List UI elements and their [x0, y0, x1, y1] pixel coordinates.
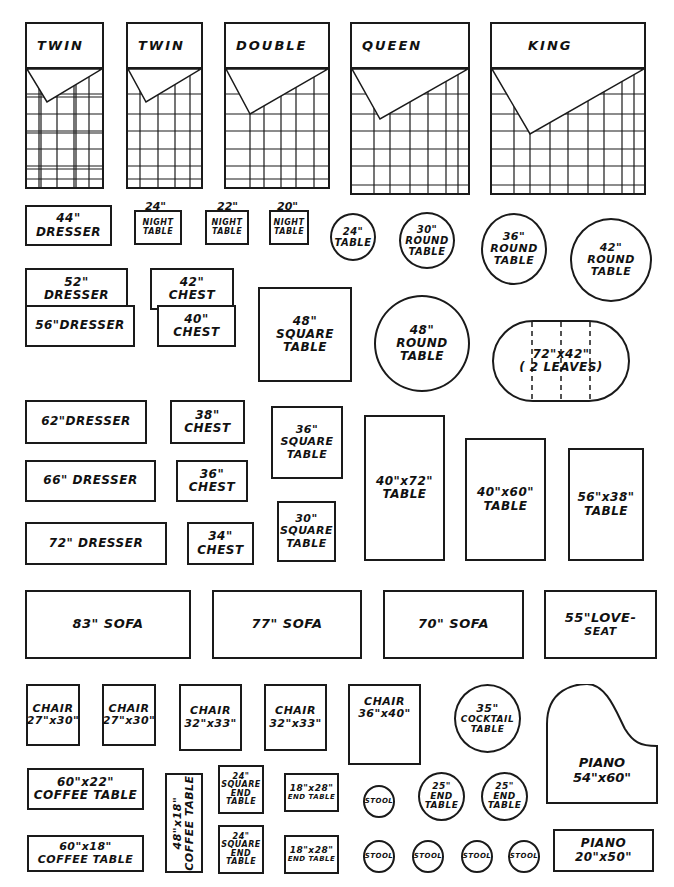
piece-size: 35": [476, 703, 499, 715]
night-table-24[interactable]: NIGHT TABLE: [134, 210, 182, 245]
piece-name: TABLE: [286, 538, 327, 550]
stool-4[interactable]: STOOL: [461, 840, 493, 873]
square-table-48[interactable]: 48" SQUARE TABLE: [258, 287, 352, 382]
round-table-36[interactable]: 36" ROUND TABLE: [481, 213, 547, 285]
bed-quilt-icon: [128, 69, 201, 187]
piece-name: TABLE: [226, 798, 256, 806]
piece-name: TABLE: [400, 350, 444, 363]
piece-name: TABLE: [283, 341, 327, 354]
round-table-42[interactable]: 42" ROUND TABLE: [570, 218, 652, 302]
grand-piano-outline-icon: [545, 684, 659, 805]
stool-1[interactable]: STOOL: [363, 785, 395, 818]
bed-quilt-icon: [492, 69, 644, 193]
upright-piano-20x50[interactable]: PIANO 20"x50": [553, 829, 654, 872]
piece-size: 20"x50": [575, 851, 632, 864]
oval-table-72x42[interactable]: 72"x42" ( 2 LEAVES): [492, 320, 630, 402]
piece-name: CHEST: [189, 481, 235, 494]
chest-38[interactable]: 38" CHEST: [170, 400, 245, 444]
sofa-70[interactable]: 70" SOFA: [383, 590, 524, 659]
bed-label: QUEEN: [352, 24, 468, 69]
coffee-table-48x18[interactable]: 48"x18" COFFEE TABLE: [165, 773, 203, 873]
bed-twin-1[interactable]: TWIN: [25, 22, 104, 189]
end-table-18x28-2[interactable]: 18"x28" END TABLE: [284, 835, 339, 874]
stool-2[interactable]: STOOL: [363, 840, 395, 873]
piece-name: CHEST: [197, 544, 243, 557]
dresser-52[interactable]: 52" DRESSER: [25, 268, 128, 310]
square-table-36[interactable]: 36" SQUARE TABLE: [271, 406, 343, 479]
round-table-48[interactable]: 48" ROUND TABLE: [374, 295, 470, 392]
coffee-table-60x18[interactable]: 60"x18" COFFEE TABLE: [27, 835, 144, 872]
piece-name: 70" SOFA: [418, 617, 489, 631]
piece-name: TABLE: [483, 500, 527, 513]
round-table-30[interactable]: 30" ROUND TABLE: [399, 212, 455, 269]
night-table-20[interactable]: NIGHT TABLE: [269, 210, 309, 245]
chair-27x30-1[interactable]: CHAIR 27"x30": [26, 684, 80, 746]
chair-32x33-2[interactable]: CHAIR 32"x33": [264, 684, 327, 751]
sofa-77[interactable]: 77" SOFA: [212, 590, 362, 659]
piece-name: TABLE: [591, 266, 632, 278]
piece-name: STOOL: [365, 798, 394, 806]
rect-table-56x38[interactable]: 56"x38" TABLE: [568, 448, 644, 561]
piece-name: DRESSER: [44, 289, 109, 302]
night-table-22[interactable]: NIGHT TABLE: [205, 210, 249, 245]
piece-name: TABLE: [287, 449, 328, 461]
piece-name: COFFEE TABLE: [38, 854, 133, 866]
dresser-56[interactable]: 56"DRESSER: [25, 305, 135, 347]
piece-name: TABLE: [584, 505, 628, 518]
round-table-24[interactable]: 24" TABLE: [330, 213, 376, 261]
piece-size: 24": [343, 226, 364, 237]
piece-name: CHEST: [173, 326, 219, 339]
piece-name: SQUARE: [280, 436, 333, 448]
stool-3[interactable]: STOOL: [412, 840, 444, 873]
chest-34[interactable]: 34" CHEST: [187, 522, 254, 565]
square-table-30[interactable]: 30" SQUARE TABLE: [277, 501, 336, 562]
dresser-72[interactable]: 72" DRESSER: [25, 522, 167, 565]
piece-name: 83" SOFA: [72, 617, 143, 631]
piece-name: TABLE: [408, 246, 445, 257]
end-table-18x28-1[interactable]: 18"x28" END TABLE: [284, 773, 339, 812]
bed-label: DOUBLE: [226, 24, 328, 69]
chest-42[interactable]: 42" CHEST: [150, 268, 234, 310]
piece-name: STOOL: [365, 853, 394, 861]
chest-40[interactable]: 40" CHEST: [157, 305, 236, 347]
grand-piano[interactable]: PIANO 54"x60": [545, 684, 659, 805]
piece-size: 40"x60": [477, 486, 534, 499]
chair-27x30-2[interactable]: CHAIR 27"x30": [102, 684, 156, 746]
round-end-table-25-1[interactable]: 25" END TABLE: [418, 772, 465, 821]
piece-size: 36"x40": [358, 708, 411, 720]
chest-36[interactable]: 36" CHEST: [176, 460, 248, 502]
chair-32x33-1[interactable]: CHAIR 32"x33": [179, 684, 242, 751]
piece-name: 62"DRESSER: [41, 415, 131, 428]
piece-name: TABLE: [425, 801, 459, 811]
piece-size: 48": [410, 324, 434, 337]
piece-name: TABLE: [226, 858, 256, 866]
bed-label: TWIN: [27, 24, 102, 69]
bed-king[interactable]: KING: [490, 22, 646, 195]
square-end-table-24-2[interactable]: 24" SQUARE END TABLE: [218, 825, 264, 874]
bed-double[interactable]: DOUBLE: [224, 22, 330, 189]
piece-size: 32"x33": [184, 718, 237, 730]
piece-name: 55"LOVE-: [565, 611, 637, 625]
rect-table-40x60[interactable]: 40"x60" TABLE: [465, 438, 546, 561]
piece-name: SQUARE: [280, 525, 333, 537]
bed-label: TWIN: [128, 24, 201, 69]
coffee-table-60x22[interactable]: 60"x22" COFFEE TABLE: [27, 768, 144, 810]
loveseat-55[interactable]: 55"LOVE- SEAT: [544, 590, 657, 659]
rect-table-40x72[interactable]: 40"x72" TABLE: [364, 415, 445, 561]
bed-queen[interactable]: QUEEN: [350, 22, 470, 195]
bed-twin-2[interactable]: TWIN: [126, 22, 203, 189]
piece-name: 66" DRESSER: [43, 474, 137, 487]
chair-36x40[interactable]: CHAIR 36"x40": [348, 684, 421, 765]
square-end-table-24-1[interactable]: 24" SQUARE END TABLE: [218, 765, 264, 814]
sofa-83[interactable]: 83" SOFA: [25, 590, 191, 659]
piece-size: 32"x33": [269, 718, 322, 730]
dresser-62[interactable]: 62"DRESSER: [25, 400, 147, 444]
stool-5[interactable]: STOOL: [508, 840, 540, 873]
dresser-66[interactable]: 66" DRESSER: [25, 460, 156, 502]
dresser-44[interactable]: 44" DRESSER: [25, 205, 112, 246]
piece-name: DRESSER: [36, 226, 101, 239]
piece-name: PIANO: [581, 837, 626, 850]
round-end-table-25-2[interactable]: 25" END TABLE: [481, 772, 528, 821]
bed-quilt-icon: [27, 69, 102, 187]
cocktail-table-35[interactable]: 35" COCKTAIL TABLE: [454, 684, 521, 753]
